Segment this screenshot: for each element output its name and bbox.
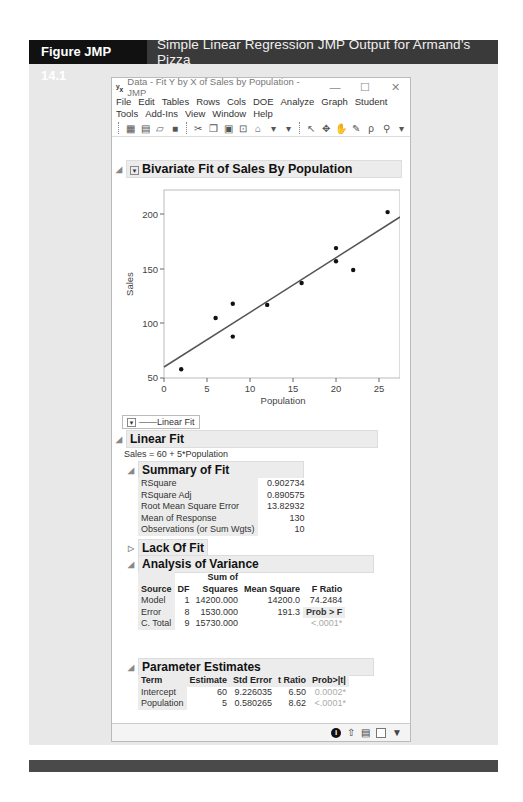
close-button[interactable]: ✕ bbox=[380, 81, 410, 94]
table-row: Population 5 0.580265 8.62 <.0001* bbox=[138, 698, 349, 710]
bivariate-title: Bivariate Fit of Sales By Population bbox=[142, 162, 352, 176]
paste-icon[interactable]: ▣ bbox=[222, 123, 234, 134]
svg-text:50: 50 bbox=[147, 372, 158, 383]
red-triangle-menu-icon[interactable]: ▼ bbox=[127, 418, 136, 427]
menu-tables[interactable]: Tables bbox=[162, 96, 189, 107]
jmp-window: ʸₓ Data - Fit Y by X of Sales by Populat… bbox=[111, 77, 411, 742]
summary-of-fit-title: Summary of Fit bbox=[138, 461, 304, 479]
minimize-button[interactable]: — bbox=[320, 81, 350, 93]
open-icon[interactable]: ▱ bbox=[154, 123, 166, 134]
linear-fit-header[interactable]: ◢ Linear Fit bbox=[116, 430, 378, 448]
menu-graph[interactable]: Graph bbox=[321, 96, 347, 107]
svg-text:100: 100 bbox=[142, 318, 158, 329]
disclosure-open-icon[interactable]: ◢ bbox=[128, 663, 138, 672]
brush-icon[interactable]: ✎ bbox=[350, 123, 362, 134]
menu-analyze[interactable]: Analyze bbox=[281, 96, 315, 107]
maximize-button[interactable]: ☐ bbox=[350, 81, 380, 94]
x-axis-label: Population bbox=[261, 395, 306, 406]
y-axis-label: Sales bbox=[124, 272, 135, 296]
crosshair-icon[interactable]: ✥ bbox=[320, 123, 332, 134]
regression-equation: Sales = 60 + 5*Population bbox=[124, 449, 228, 459]
menu-edit[interactable]: Edit bbox=[138, 96, 154, 107]
svg-text:15: 15 bbox=[288, 383, 299, 394]
info-icon[interactable]: i bbox=[331, 728, 341, 738]
disclosure-open-icon[interactable]: ◢ bbox=[128, 560, 138, 569]
scatter-plot[interactable]: 50 100 150 200 Sales 0 5 10 15 20 25 Pop… bbox=[120, 182, 400, 412]
arrow-icon[interactable]: ↖ bbox=[305, 123, 317, 134]
menu-tools[interactable]: Tools bbox=[116, 108, 138, 119]
menu-view[interactable]: View bbox=[185, 108, 205, 119]
dropdown-icon[interactable]: ▾ bbox=[267, 123, 279, 134]
title-bar: ʸₓ Data - Fit Y by X of Sales by Populat… bbox=[112, 78, 410, 96]
toolbar: ▦ ▤ ▱ ■ ✂ ❐ ▣ ⊡ ⌂ ▾ ▾ ↖ ✥ ✋ ✎ ρ ⚲ ▾ bbox=[112, 120, 410, 137]
menu-doe[interactable]: DOE bbox=[253, 96, 274, 107]
save-icon[interactable]: ■ bbox=[169, 123, 181, 134]
svg-text:150: 150 bbox=[142, 264, 158, 275]
red-triangle-menu-icon[interactable]: ▼ bbox=[130, 166, 139, 175]
plot-frame bbox=[164, 190, 400, 378]
toolbar-grip[interactable] bbox=[299, 122, 300, 134]
grabber-hand-icon[interactable]: ✋ bbox=[335, 123, 347, 134]
disclosure-open-icon[interactable]: ◢ bbox=[128, 466, 138, 475]
magnifier-icon[interactable]: ⚲ bbox=[380, 123, 392, 134]
lasso-icon[interactable]: ρ bbox=[365, 123, 377, 134]
color-box-icon[interactable] bbox=[376, 728, 386, 738]
dropdown-icon[interactable]: ▾ bbox=[282, 123, 294, 134]
parameter-estimates-header[interactable]: ◢ Parameter Estimates bbox=[128, 658, 378, 676]
table-row: C. Total 9 15730.000 <.0001* bbox=[138, 618, 345, 630]
linear-fit-legend[interactable]: ▼——Linear Fit bbox=[122, 415, 200, 429]
summary-of-fit-table: RSquare0.902734 RSquare Adj0.890575 Root… bbox=[138, 478, 308, 536]
figure-caption-bar: Figure JMP 14.1 Simple Linear Regression… bbox=[29, 40, 498, 64]
new-script-icon[interactable]: ▤ bbox=[139, 123, 151, 134]
analysis-of-variance-header[interactable]: ◢ Analysis of Variance bbox=[128, 555, 378, 573]
table-row: Intercept 60 9.226035 6.50 0.0002* bbox=[138, 687, 349, 699]
up-arrow-icon[interactable]: ⇧ bbox=[347, 727, 355, 738]
table-row: Mean of Response130 bbox=[138, 513, 308, 525]
lock-icon[interactable]: ⌂ bbox=[252, 123, 264, 134]
y-axis: 50 100 150 200 Sales bbox=[124, 209, 164, 383]
disclosure-closed-icon[interactable]: ▷ bbox=[128, 544, 138, 553]
dropdown-icon[interactable]: ▾ bbox=[395, 123, 407, 134]
figure-title: Simple Linear Regression JMP Output for … bbox=[147, 37, 498, 67]
table-row: Observations (or Sum Wgts)10 bbox=[138, 524, 308, 536]
window-title: Data - Fit Y by X of Sales by Population… bbox=[127, 76, 320, 98]
menu-cols[interactable]: Cols bbox=[227, 96, 246, 107]
menu-add-ins[interactable]: Add-Ins bbox=[145, 108, 178, 119]
figure-bottom-bar bbox=[29, 760, 498, 772]
menu-file[interactable]: File bbox=[116, 96, 131, 107]
menu-rows[interactable]: Rows bbox=[196, 96, 220, 107]
disclosure-open-icon[interactable]: ◢ bbox=[116, 165, 126, 174]
svg-text:200: 200 bbox=[142, 209, 158, 220]
summary-of-fit-header[interactable]: ◢ Summary of Fit bbox=[128, 461, 308, 479]
prob-f-label: Prob > F bbox=[303, 607, 345, 619]
table-icon[interactable]: ▤ bbox=[361, 727, 370, 738]
status-bar: i ⇧ ▤ ▼ bbox=[112, 723, 410, 741]
jmp-fit-y-by-x-icon: ʸₓ bbox=[116, 82, 123, 93]
svg-text:20: 20 bbox=[331, 383, 342, 394]
toolbar-grip[interactable] bbox=[118, 122, 119, 134]
menu-help[interactable]: Help bbox=[253, 108, 273, 119]
dropdown-icon[interactable]: ▼ bbox=[392, 727, 402, 738]
svg-text:0: 0 bbox=[161, 383, 166, 394]
table-row: Root Mean Square Error13.82932 bbox=[138, 501, 308, 513]
new-data-table-icon[interactable]: ▦ bbox=[124, 123, 136, 134]
table-row: Error 8 1530.000 191.3 Prob > F bbox=[138, 607, 345, 619]
p-value: <.0001* bbox=[303, 618, 345, 630]
parameter-estimates-table: Term Estimate Std Error t Ratio Prob>|t|… bbox=[138, 675, 349, 710]
toolbar-divider bbox=[186, 122, 187, 134]
journal-icon[interactable]: ⊡ bbox=[237, 123, 249, 134]
disclosure-open-icon[interactable]: ◢ bbox=[116, 435, 126, 444]
menu-bar: FileEditTablesRowsColsDOEAnalyzeGraphStu… bbox=[112, 96, 410, 120]
svg-text:5: 5 bbox=[204, 383, 209, 394]
legend-label: Linear Fit bbox=[157, 417, 195, 427]
svg-text:10: 10 bbox=[245, 383, 256, 394]
linear-fit-title: Linear Fit bbox=[126, 430, 378, 448]
cut-icon[interactable]: ✂ bbox=[192, 123, 204, 134]
table-row: RSquare Adj0.890575 bbox=[138, 490, 308, 502]
menu-window[interactable]: Window bbox=[212, 108, 246, 119]
menu-student[interactable]: Student bbox=[355, 96, 388, 107]
copy-icon[interactable]: ❐ bbox=[207, 123, 219, 134]
svg-text:25: 25 bbox=[374, 383, 385, 394]
bivariate-fit-header[interactable]: ◢ ▼Bivariate Fit of Sales By Population bbox=[116, 160, 408, 178]
table-row: Model 1 14200.000 14200.0 74.2484 bbox=[138, 595, 345, 607]
